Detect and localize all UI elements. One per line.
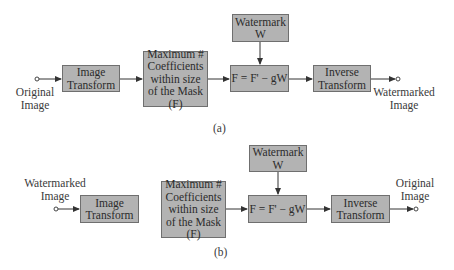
input-terminal-b xyxy=(54,207,58,211)
input-label-b: Watermarked Image xyxy=(22,177,88,202)
image-transform-block-a: Image Transform xyxy=(62,65,120,92)
caption-b: (b) xyxy=(214,246,227,258)
embed-formula-block-a: F = F' − gW xyxy=(230,65,289,92)
connector-lines xyxy=(0,0,454,270)
max-coefficients-block-a: Maximum # Coefficients within size of th… xyxy=(143,51,208,107)
output-label-b: Original Image xyxy=(392,177,438,202)
watermark-block-b: Watermark W xyxy=(249,145,307,172)
embed-formula-block-b: F = F' − gW xyxy=(248,195,307,223)
inverse-transform-block-a: Inverse Transform xyxy=(313,65,371,92)
watermark-block-a: Watermark W xyxy=(232,14,289,42)
image-transform-block-b: Image Transform xyxy=(80,195,139,223)
input-label-a: Original Image xyxy=(10,86,60,111)
output-terminal-b xyxy=(414,207,418,211)
output-label-a: Watermarked Image xyxy=(372,86,436,111)
input-terminal-a xyxy=(35,77,39,81)
inverse-transform-block-b: Inverse Transform xyxy=(331,195,390,223)
max-coefficients-block-b: Maximum # Coefficients within size of th… xyxy=(161,181,226,238)
caption-a: (a) xyxy=(213,122,226,134)
output-terminal-a xyxy=(396,77,400,81)
